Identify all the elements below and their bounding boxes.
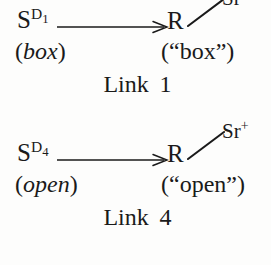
product-state-word: box (180, 38, 216, 64)
single-bond-icon (187, 129, 227, 161)
scheme-caption: Link4 (0, 205, 271, 229)
quote-close: ”) (226, 171, 245, 197)
quote-open: (“ (161, 171, 180, 197)
paren-close: ) (70, 171, 78, 197)
quote-open: (“ (161, 38, 180, 64)
reactant-superscript-letter: D (31, 5, 42, 22)
reaction-arrow-icon (57, 20, 169, 34)
product-state-label: (“box”) (161, 39, 234, 63)
caption-label: Link (103, 204, 148, 230)
reactant-state-label: (open) (15, 172, 78, 196)
reactant-superscript-letter: D (31, 138, 42, 155)
scheme-caption: Link1 (0, 72, 271, 96)
quote-close: ”) (216, 38, 235, 64)
reactant-formula: SD4 (17, 139, 49, 165)
single-bond-icon (187, 0, 227, 28)
reaction-scheme-figure: SD1 R Sr+ (box) (“box”) Link1 (0, 0, 271, 265)
caption-label: Link (103, 71, 148, 97)
reaction-scheme-link-1: SD1 R Sr+ (box) (“box”) Link1 (0, 6, 271, 44)
reactant-state-word: box (23, 38, 58, 64)
reaction-arrow-icon (57, 153, 169, 167)
paren-close: ) (58, 38, 66, 64)
product-core-label: R (167, 8, 184, 33)
substituent-element: Sr (222, 0, 241, 10)
reactant-superscript: D1 (31, 5, 49, 22)
caption-number: 4 (160, 204, 172, 230)
product-state-word: open (180, 171, 227, 197)
reactant-symbol: S (17, 6, 31, 33)
reactant-superscript-subscript: 1 (42, 12, 48, 26)
reactant-state-word: open (23, 171, 70, 197)
paren-open: ( (15, 171, 23, 197)
product-state-label: (“open”) (161, 172, 245, 196)
reactant-formula: SD1 (17, 6, 49, 32)
product-core-label: R (167, 141, 184, 166)
caption-number: 1 (160, 71, 172, 97)
paren-open: ( (15, 38, 23, 64)
reaction-scheme-link-4: SD4 R Sr+ (open) (“open”) Link4 (0, 139, 271, 177)
reactant-symbol: S (17, 139, 31, 166)
reactant-superscript: D4 (31, 138, 49, 155)
substituent-element: Sr (222, 119, 241, 143)
substituent-charge: + (241, 118, 249, 133)
reactant-state-label: (box) (15, 39, 66, 63)
product-substituent-label: Sr+ (222, 119, 249, 142)
reactant-superscript-subscript: 4 (42, 145, 48, 159)
product-substituent-label: Sr+ (222, 0, 249, 9)
